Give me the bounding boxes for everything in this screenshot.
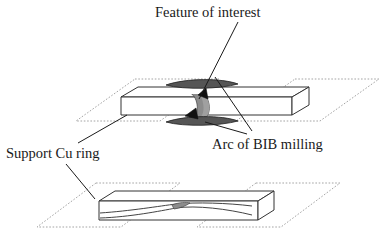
label-feature-of-interest: Feature of interest xyxy=(155,4,261,21)
support-leader-upper xyxy=(78,115,127,143)
support-leader-lower xyxy=(66,164,95,199)
label-support-cu-ring: Support Cu ring xyxy=(6,145,99,162)
figure-canvas: Feature of interest Arc of BIB milling S… xyxy=(0,0,385,248)
isometric-diagram xyxy=(0,0,385,248)
label-arc-of-bib-milling: Arc of BIB milling xyxy=(212,136,323,153)
slab-lower-top-face xyxy=(99,191,274,201)
slab-upper-top-face xyxy=(121,87,309,97)
lower-assembly xyxy=(37,183,340,227)
arc-lower xyxy=(166,117,238,126)
